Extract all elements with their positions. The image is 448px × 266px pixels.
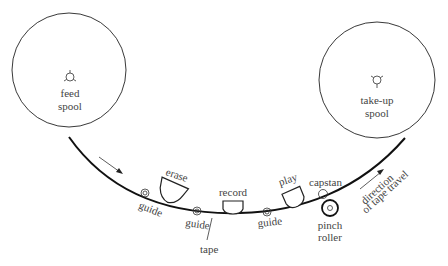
record-head-label: record bbox=[219, 186, 248, 198]
feed-spool-label-2: spool bbox=[58, 100, 82, 112]
feed-spool: feed spool bbox=[12, 13, 126, 127]
tape-label: tape bbox=[200, 243, 218, 255]
tape-transport-diagram: feed spool take-up spool guide erase gui… bbox=[0, 0, 448, 266]
erase-head: erase bbox=[158, 165, 190, 205]
pinch-roller-label-1: pinch bbox=[318, 219, 343, 231]
feed-spool-hub-icon bbox=[64, 70, 76, 81]
feed-direction-arrow-icon bbox=[99, 157, 123, 174]
takeup-spool-label-2: spool bbox=[365, 107, 389, 119]
feed-spool-label-1: feed bbox=[61, 87, 80, 99]
guide-3-label: guide bbox=[257, 214, 283, 229]
play-head-label: play bbox=[277, 170, 299, 187]
capstan-label: capstan bbox=[309, 176, 342, 188]
record-head: record bbox=[219, 186, 248, 214]
takeup-spool-label-1: take-up bbox=[361, 94, 394, 106]
guide-2-label: guide bbox=[185, 216, 211, 231]
pinch-roller: pinch roller bbox=[318, 200, 343, 243]
pinch-roller-label-2: roller bbox=[318, 231, 342, 243]
guide-1-label: guide bbox=[137, 199, 164, 219]
travel-direction: direction of tape travel bbox=[358, 168, 410, 216]
takeup-spool: take-up spool bbox=[319, 22, 435, 138]
play-head: play bbox=[277, 170, 306, 209]
takeup-spool-hub-icon bbox=[371, 76, 383, 88]
